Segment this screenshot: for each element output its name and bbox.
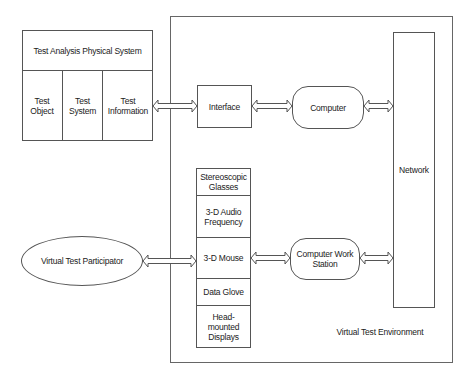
arrow-workstation-network [360, 252, 393, 264]
arrow-participator-mouse [143, 255, 196, 267]
arrow-computer-network [364, 100, 393, 112]
connection-arrows [0, 0, 469, 376]
arrow-mouse-workstation [251, 252, 290, 264]
arrow-testinfo-interface [153, 100, 197, 112]
arrow-interface-computer [252, 100, 292, 112]
